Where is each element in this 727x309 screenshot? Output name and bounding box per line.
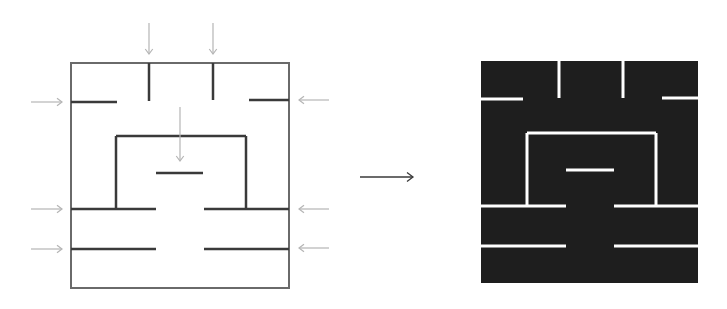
maze-diagram	[0, 0, 727, 309]
arrow-right-icon	[31, 205, 62, 213]
arrow-down-icon	[176, 107, 184, 161]
arrow-left-icon	[299, 244, 329, 252]
transform-arrow-icon	[360, 173, 413, 182]
arrow-down-icon	[209, 23, 217, 54]
arrow-down-icon	[145, 23, 153, 54]
arrow-left-icon	[299, 96, 329, 104]
maze-border	[71, 63, 289, 288]
arrow-left-icon	[299, 205, 329, 213]
line-maze	[71, 63, 289, 288]
arrow-right-icon	[360, 173, 413, 182]
maze-fill	[481, 61, 698, 283]
arrow-right-icon	[31, 98, 62, 106]
arrow-right-icon	[31, 245, 62, 253]
inverted-maze	[481, 61, 698, 283]
hint-arrows	[31, 23, 329, 253]
